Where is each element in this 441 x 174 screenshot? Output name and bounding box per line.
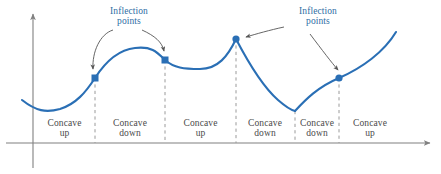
callout-line-1: Inflection: [287, 6, 349, 16]
region-label-concave-up-2: Concave up: [165, 119, 236, 139]
callout-inflection-points-left: Inflection points: [98, 6, 160, 27]
region-label-line-2: up: [339, 129, 401, 139]
curve-segment-concave-up-2: [165, 39, 236, 69]
region-label-concave-down-2: Concave down: [234, 119, 296, 139]
inflection-points-diagram: Inflection points Inflection points Conc…: [0, 0, 441, 174]
region-label-concave-down-1: Concave down: [95, 119, 165, 139]
region-label-line-2: down: [95, 129, 165, 139]
region-label-line-2: up: [165, 129, 236, 139]
callout-line-2: points: [287, 16, 349, 26]
inflection-point-marker: [162, 57, 169, 64]
inflection-point-group: [92, 35, 343, 81]
curve-segment-concave-down-2: [236, 39, 295, 111]
region-label-concave-down-3: Concave down: [293, 119, 341, 139]
diagram-canvas: [0, 0, 441, 174]
inflection-point-marker: [335, 74, 342, 81]
curve-segment-concave-down-1: [95, 48, 165, 78]
curve-segment-concave-up-3: [339, 32, 396, 78]
inflection-point-marker: [232, 35, 239, 42]
region-label-line-2: down: [293, 129, 341, 139]
callout-leader-2a: [246, 27, 284, 37]
callout-leader-1a: [93, 30, 113, 69]
region-label-line-2: up: [34, 129, 95, 139]
callout-inflection-points-right: Inflection points: [287, 6, 349, 27]
callout-line-1: Inflection: [98, 6, 160, 16]
region-label-concave-up-1: Concave up: [34, 119, 95, 139]
function-curve-group: [22, 32, 396, 111]
inflection-point-marker: [92, 75, 99, 82]
callout-line-2: points: [98, 16, 160, 26]
region-label-line-2: down: [234, 129, 296, 139]
region-label-concave-up-3: Concave up: [339, 119, 401, 139]
curve-segment-concave-down-3: [295, 78, 339, 111]
callout-leader-2b: [310, 34, 338, 70]
axis-group: [6, 14, 430, 168]
